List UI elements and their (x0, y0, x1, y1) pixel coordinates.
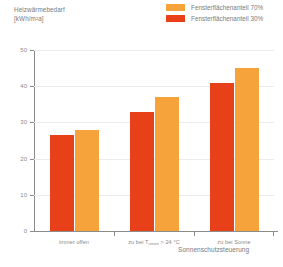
x-axis-tick-label: zu bei Sonne (217, 239, 250, 245)
y-axis-tick (30, 50, 34, 51)
y-axis-tick (30, 195, 34, 196)
x-axis-line (34, 231, 278, 232)
y-axis-tick (30, 159, 34, 160)
x-axis-tick (194, 232, 195, 236)
legend-label: Fensterflächenanteil 30% (191, 15, 263, 22)
y-axis-tick-label: 10 (20, 192, 27, 198)
bar (155, 97, 179, 231)
bar (210, 83, 234, 231)
legend-label: Fensterflächenanteil 70% (191, 4, 263, 11)
y-axis-tick-label: 20 (20, 156, 27, 162)
bar (235, 68, 259, 231)
bar (75, 130, 99, 231)
legend: Fensterflächenanteil 70% Fensterflächena… (166, 4, 263, 22)
y-axis-tick-label: 40 (20, 83, 27, 89)
x-axis-tick-label: zu bei Tinnen > 24 °C (128, 239, 180, 245)
bar (50, 135, 74, 231)
x-axis-title: Sonnenschutzsteuerung (178, 246, 249, 253)
x-axis-tick (273, 232, 274, 236)
gridline (34, 50, 274, 51)
legend-item: Fensterflächenanteil 70% (166, 4, 263, 11)
x-axis-tick-label: immer offen (59, 239, 89, 245)
bar (130, 112, 154, 231)
y-axis-line (34, 50, 35, 232)
y-axis-title-line2: [kWh/m²a] (14, 14, 65, 23)
plot-area: 01020304050immer offenzu bei Tinnen > 24… (34, 50, 274, 232)
y-axis-tick-label: 0 (24, 228, 27, 234)
y-axis-title: Heizwärmebedarf [kWh/m²a] (14, 5, 65, 23)
y-axis-tick (30, 231, 34, 232)
legend-item: Fensterflächenanteil 30% (166, 15, 263, 22)
y-axis-tick-label: 30 (20, 119, 27, 125)
y-axis-tick-label: 50 (20, 47, 27, 53)
bar-chart: Heizwärmebedarf [kWh/m²a] Fensterflächen… (0, 0, 283, 267)
legend-swatch-orange (166, 4, 185, 11)
legend-swatch-red (166, 15, 185, 22)
x-axis-tick (114, 232, 115, 236)
y-axis-title-line1: Heizwärmebedarf (14, 5, 65, 14)
y-axis-tick (30, 86, 34, 87)
y-axis-tick (30, 122, 34, 123)
